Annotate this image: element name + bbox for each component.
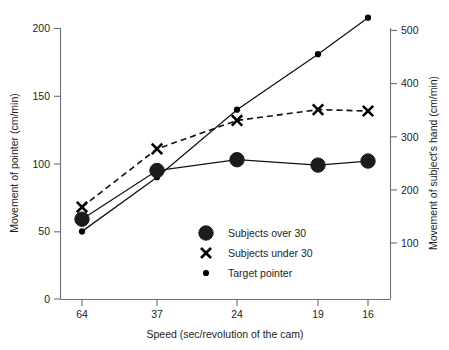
legend-label-subjects-under-30: Subjects under 30: [228, 247, 313, 259]
right-tick-label-200: 200: [401, 184, 419, 196]
left-tick-label-50: 50: [38, 225, 50, 237]
bottom-tick-label-16: 16: [362, 308, 374, 320]
legend-label-subjects-over-30: Subjects over 30: [228, 227, 306, 239]
right-tick-label-500: 500: [401, 24, 419, 36]
subjects-under-30-line: [82, 110, 368, 207]
target-pointer-point: [79, 228, 85, 234]
bottom-tick-label-37: 37: [151, 308, 163, 320]
chart-svg: 200 150 100 50 0 Movement of pointer (cm…: [0, 0, 449, 350]
chart-legend: Subjects over 30 Subjects under 30 Targe…: [199, 226, 313, 279]
right-axis-title: Movement of subject's hand (cm/min): [427, 76, 439, 250]
legend-item-target-pointer: Target pointer: [203, 267, 293, 279]
bottom-axis: 64 37 24 19 16 Speed (sec/revolution of …: [61, 300, 391, 341]
target-pointer-point: [234, 107, 240, 113]
chart-figure: 200 150 100 50 0 Movement of pointer (cm…: [0, 0, 449, 350]
target-pointer-point: [315, 51, 321, 57]
left-tick-label-0: 0: [44, 293, 50, 305]
legend-label-target-pointer: Target pointer: [228, 267, 293, 279]
subjects-over-30-point: [311, 158, 325, 172]
subjects-over-30-point: [150, 163, 164, 177]
legend-small-dot-icon: [203, 270, 209, 276]
series-subjects-under-30: [77, 104, 373, 212]
target-pointer-point: [365, 15, 371, 21]
left-axis: 200 150 100 50 0 Movement of pointer (cm…: [8, 22, 61, 305]
bottom-tick-label-64: 64: [76, 308, 88, 320]
left-tick-label-200: 200: [32, 22, 50, 34]
right-tick-label-400: 400: [401, 77, 419, 89]
subjects-under-30-markers: [77, 104, 373, 212]
legend-item-subjects-under-30: Subjects under 30: [201, 247, 313, 259]
subjects-over-30-point: [230, 152, 244, 166]
bottom-tick-label-24: 24: [231, 308, 243, 320]
subjects-over-30-point: [361, 154, 375, 168]
right-tick-label-300: 300: [401, 131, 419, 143]
subjects-over-30-point: [75, 212, 89, 226]
subjects-over-30-line: [82, 160, 368, 220]
bottom-tick-label-19: 19: [312, 308, 324, 320]
left-tick-label-150: 150: [32, 90, 50, 102]
bottom-axis-title: Speed (sec/revolution of the cam): [147, 328, 304, 340]
series-subjects-over-30: [75, 152, 375, 226]
target-pointer-line: [82, 18, 368, 232]
left-axis-title: Movement of pointer (cm/min): [8, 93, 20, 232]
right-axis: 500 400 300 200 100 Movement of subject'…: [391, 24, 440, 299]
series-target-pointer: [79, 15, 371, 235]
legend-large-filled-circle-icon: [199, 226, 213, 240]
left-tick-label-100: 100: [32, 158, 50, 170]
legend-item-subjects-over-30: Subjects over 30: [199, 226, 307, 240]
right-tick-label-100: 100: [401, 237, 419, 249]
